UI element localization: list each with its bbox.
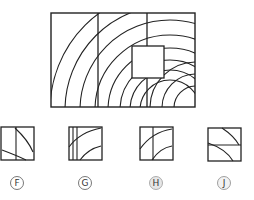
main-figure — [50, 0, 254, 200]
label-f[interactable]: F — [11, 177, 24, 190]
label-j[interactable]: J — [218, 177, 231, 190]
missing-square — [132, 46, 164, 78]
left-arcs — [50, 0, 254, 200]
label-g[interactable]: G — [79, 177, 92, 190]
svg-text:H: H — [153, 178, 160, 188]
option-j[interactable] — [208, 128, 241, 161]
svg-text:G: G — [82, 178, 89, 188]
option-h[interactable] — [140, 127, 173, 160]
puzzle-diagram: F G H J — [0, 0, 254, 200]
option-labels: F G H J — [11, 177, 231, 190]
label-h[interactable]: H — [150, 177, 163, 190]
option-f[interactable] — [1, 127, 34, 160]
svg-text:J: J — [222, 178, 226, 188]
svg-text:F: F — [14, 178, 19, 188]
option-g[interactable] — [69, 127, 102, 160]
